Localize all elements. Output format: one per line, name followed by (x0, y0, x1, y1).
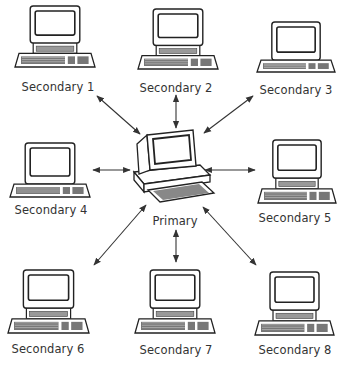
connection-arrow-s8 (203, 207, 256, 265)
connection-arrow-s6 (94, 205, 146, 265)
secondary-computer-icon-6 (8, 270, 89, 333)
label-secondary-1: Secondary 1 (22, 80, 95, 94)
label-secondary-6: Secondary 6 (12, 342, 85, 356)
label-secondary-5: Secondary 5 (259, 211, 332, 225)
primary-computer-icon (134, 130, 214, 202)
label-secondary-8: Secondary 8 (259, 343, 332, 357)
secondary-computer-icon-3 (257, 22, 335, 72)
connection-arrow-s3 (204, 96, 253, 133)
label-secondary-7: Secondary 7 (140, 343, 213, 357)
label-secondary-2: Secondary 2 (140, 81, 213, 95)
label-primary: Primary (152, 214, 197, 228)
network-diagram: Secondary 1 Secondary 2 Secondary 3 Seco… (0, 0, 345, 369)
connection-layer (0, 0, 345, 369)
label-secondary-4: Secondary 4 (15, 203, 88, 217)
secondary-computer-icon-4 (10, 143, 90, 197)
secondary-computer-icon-8 (255, 272, 334, 335)
secondary-computer-icon-7 (135, 270, 215, 333)
label-secondary-3: Secondary 3 (260, 83, 333, 97)
secondary-computer-icon-5 (258, 140, 336, 203)
connection-arrow-s1 (97, 96, 140, 134)
secondary-computer-icon-2 (138, 9, 218, 69)
secondary-computer-icon-1 (15, 6, 95, 67)
